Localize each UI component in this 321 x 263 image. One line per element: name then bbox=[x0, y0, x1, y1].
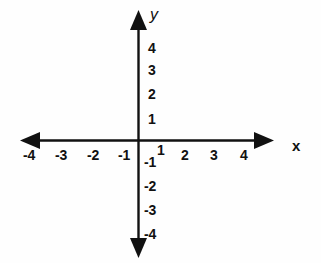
coordinate-plane-figure: y x -4 -3 -2 -1 1 2 3 4 4 3 2 1 -1 -2 -3… bbox=[0, 0, 321, 263]
x-axis-label: x bbox=[292, 138, 300, 153]
x-tick-label-2: 2 bbox=[181, 148, 189, 162]
y-tick-label-1: 1 bbox=[148, 112, 156, 126]
y-tick-label-neg4: -4 bbox=[144, 227, 156, 241]
x-tick-label-neg3: -3 bbox=[55, 148, 67, 162]
y-tick-label-4: 4 bbox=[148, 41, 156, 55]
axes-svg bbox=[0, 0, 321, 263]
y-tick-label-neg1: -1 bbox=[144, 155, 156, 169]
y-axis-group bbox=[130, 10, 147, 258]
x-tick-label-3: 3 bbox=[210, 148, 218, 162]
y-tick-label-neg3: -3 bbox=[144, 203, 156, 217]
x-axis-right-arrowhead bbox=[254, 132, 274, 149]
x-tick-label-1: 1 bbox=[157, 143, 165, 157]
x-tick-label-neg4: -4 bbox=[23, 148, 35, 162]
y-tick-label-2: 2 bbox=[148, 87, 156, 101]
x-tick-label-4: 4 bbox=[240, 148, 248, 162]
y-tick-label-3: 3 bbox=[148, 63, 156, 77]
x-tick-label-neg2: -2 bbox=[87, 148, 99, 162]
y-axis-label: y bbox=[150, 7, 158, 23]
y-tick-label-neg2: -2 bbox=[144, 179, 156, 193]
y-axis-up-arrowhead bbox=[130, 10, 147, 30]
x-tick-label-neg1: -1 bbox=[118, 148, 130, 162]
